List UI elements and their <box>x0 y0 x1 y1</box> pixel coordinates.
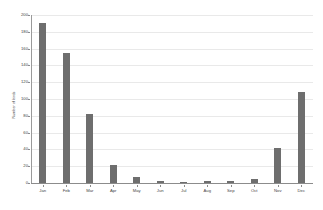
y-axis-tick-labels: 020406080100120140160180200 <box>0 15 28 184</box>
y-axis-tick-mark <box>28 99 30 100</box>
x-axis-tick-label: Oct <box>251 189 258 193</box>
plot-area <box>31 15 313 183</box>
y-axis-tick-mark <box>28 116 30 117</box>
y-axis-tick-mark <box>28 166 30 167</box>
y-axis-tick-mark <box>28 82 30 83</box>
bar-slot <box>102 15 126 183</box>
y-axis-tick-label: 40 <box>2 147 28 151</box>
bar-slot <box>219 15 243 183</box>
x-axis-tick-label: May <box>133 189 141 193</box>
y-axis-tick-mark <box>28 15 30 16</box>
x-axis-tick-label: Dec <box>298 189 305 193</box>
y-axis-tick-label: 20 <box>2 164 28 168</box>
x-axis-tick-mark <box>113 185 114 187</box>
bar <box>274 148 281 183</box>
x-axis-tick-mark <box>278 185 279 187</box>
x-axis-tick-mark <box>43 185 44 187</box>
y-axis-tick-label: 160 <box>2 46 28 50</box>
bar-slot <box>125 15 149 183</box>
x-axis-tick-mark <box>301 185 302 187</box>
bar-slot <box>149 15 173 183</box>
x-axis-tick-mark <box>137 185 138 187</box>
x-axis-line <box>31 183 313 184</box>
y-axis-tick-mark <box>28 32 30 33</box>
bar-slot <box>243 15 267 183</box>
bar <box>39 23 46 183</box>
bar <box>86 114 93 183</box>
bar-slot <box>196 15 220 183</box>
x-axis-tick-label: Mar <box>86 189 93 193</box>
y-axis-tick-label: 140 <box>2 63 28 67</box>
y-axis-tick-mark <box>28 49 30 50</box>
bar-slot <box>31 15 55 183</box>
x-axis-tick-label: Jun <box>157 189 164 193</box>
x-axis-tick-mark <box>160 185 161 187</box>
y-axis-tick-label: 0 <box>2 181 28 185</box>
bar-chart: Number of birds 020406080100120140160180… <box>0 0 323 210</box>
x-axis-tick-label: Apr <box>110 189 117 193</box>
x-axis-tick-labels: JanFebMarAprMayJunJulAugSepOctNovDec <box>31 185 313 197</box>
bar-slot <box>55 15 79 183</box>
y-axis-tick-label: 180 <box>2 30 28 34</box>
y-axis-tick-mark <box>28 149 30 150</box>
bar-slot <box>172 15 196 183</box>
bar <box>298 92 305 183</box>
x-axis-tick-mark <box>184 185 185 187</box>
y-axis-tick-label: 100 <box>2 97 28 101</box>
y-axis-tick-label: 120 <box>2 80 28 84</box>
bar <box>63 53 70 183</box>
y-axis-tick-mark <box>28 183 30 184</box>
bar <box>110 165 117 183</box>
x-axis-tick-mark <box>207 185 208 187</box>
x-axis-tick-mark <box>254 185 255 187</box>
x-axis-tick-mark <box>231 185 232 187</box>
bar-slot <box>78 15 102 183</box>
x-axis-tick-label: Feb <box>63 189 70 193</box>
x-axis-tick-label: Aug <box>204 189 211 193</box>
x-axis-tick-mark <box>90 185 91 187</box>
y-axis-line <box>31 15 32 184</box>
y-axis-tick-label: 60 <box>2 130 28 134</box>
x-axis-tick-label: Jul <box>181 189 186 193</box>
y-axis-tick-mark <box>28 65 30 66</box>
x-axis-tick-label: Sep <box>227 189 234 193</box>
y-axis-tick-label: 200 <box>2 13 28 17</box>
y-axis-tick-mark <box>28 133 30 134</box>
x-axis-tick-label: Jan <box>39 189 46 193</box>
bar-slot <box>290 15 314 183</box>
x-axis-tick-label: Nov <box>274 189 281 193</box>
y-axis-tick-label: 80 <box>2 114 28 118</box>
bar-slot <box>266 15 290 183</box>
x-axis-tick-mark <box>66 185 67 187</box>
